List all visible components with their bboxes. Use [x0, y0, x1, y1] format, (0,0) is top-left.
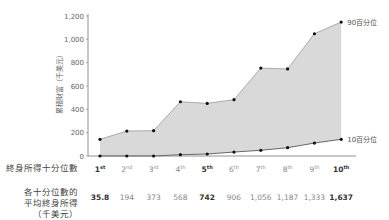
- decile-label: 8th: [273, 164, 303, 174]
- decile-label: 7th: [246, 164, 276, 174]
- p90-marker: [340, 20, 343, 23]
- p90-marker: [179, 100, 182, 103]
- decile-label: 4th: [165, 164, 195, 174]
- decile-label: 2nd: [112, 164, 142, 174]
- income-value: 906: [219, 193, 249, 202]
- decile-label: 3rd: [139, 164, 169, 174]
- p90-marker: [232, 98, 235, 101]
- income-value: 373: [139, 193, 169, 202]
- y-tick-label: 800: [71, 59, 84, 67]
- decile-label: 9th: [299, 164, 329, 174]
- income-value: 1,056: [246, 193, 276, 202]
- y-tick-label: 600: [71, 83, 84, 91]
- p10-marker: [179, 153, 182, 156]
- p90-label: 90百分位: [347, 18, 377, 27]
- income-row-label-line1: 各十分位數的: [2, 187, 78, 198]
- decile-label: 6th: [219, 164, 249, 174]
- income-value: 1,187: [273, 193, 303, 202]
- p90-marker: [259, 66, 262, 69]
- p90-marker: [152, 129, 155, 132]
- decile-label: 5th: [192, 164, 222, 174]
- p90-marker: [286, 67, 289, 70]
- income-value: 1,637: [326, 193, 356, 202]
- income-value: 1,333: [299, 193, 329, 202]
- p90-marker: [206, 102, 209, 105]
- y-tick-label: 1,000: [64, 36, 84, 44]
- p10-marker: [286, 146, 289, 149]
- income-value: 742: [192, 193, 222, 202]
- y-tick-label: 0: [80, 153, 84, 161]
- p10-marker: [232, 150, 235, 153]
- income-row-label: 各十分位數的 平均終身所得 （千美元）: [2, 187, 78, 220]
- p90-marker: [313, 32, 316, 35]
- income-value: 568: [165, 193, 195, 202]
- range-fill: [100, 22, 341, 156]
- p10-marker: [259, 149, 262, 152]
- income-row-label-line2: 平均終身所得: [2, 198, 78, 209]
- p10-marker: [98, 154, 101, 157]
- y-tick-label: 200: [71, 129, 84, 137]
- p10-marker: [125, 154, 128, 157]
- p10-marker: [152, 154, 155, 157]
- y-axis-title: 累積財富（千美元）: [55, 51, 64, 114]
- decile-label: 1st: [85, 164, 115, 174]
- decile-label: 10th: [326, 164, 356, 174]
- p10-marker: [313, 141, 316, 144]
- income-row-label-line3: （千美元）: [2, 209, 78, 220]
- y-tick-label: 1,200: [64, 13, 84, 21]
- p90-marker: [125, 129, 128, 132]
- y-tick-label: 400: [71, 106, 84, 114]
- income-value: 194: [112, 193, 142, 202]
- p90-marker: [98, 138, 101, 141]
- decile-row-label: 終身所得十分位數: [2, 163, 78, 174]
- p10-marker: [206, 152, 209, 155]
- p10-marker: [340, 138, 343, 141]
- p10-label: 10百分位: [347, 135, 377, 144]
- income-value: 35.8: [85, 193, 115, 202]
